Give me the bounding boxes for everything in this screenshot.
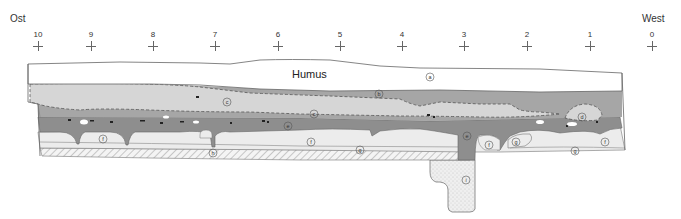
pit-i: [430, 160, 475, 212]
svg-text:c: c: [313, 111, 316, 117]
svg-text:i: i: [465, 177, 466, 183]
svg-text:e: e: [465, 133, 468, 139]
svg-text:g: g: [573, 148, 576, 154]
svg-text:g: g: [514, 139, 517, 145]
stratigraphic-section: abccdeeffffggghi: [0, 0, 681, 219]
svg-text:h: h: [211, 150, 214, 156]
svg-text:g: g: [358, 147, 361, 153]
svg-text:e: e: [286, 123, 289, 129]
svg-text:c: c: [226, 99, 229, 105]
humus-label: Humus: [292, 68, 327, 80]
svg-text:b: b: [377, 91, 380, 97]
svg-text:d: d: [580, 114, 583, 120]
